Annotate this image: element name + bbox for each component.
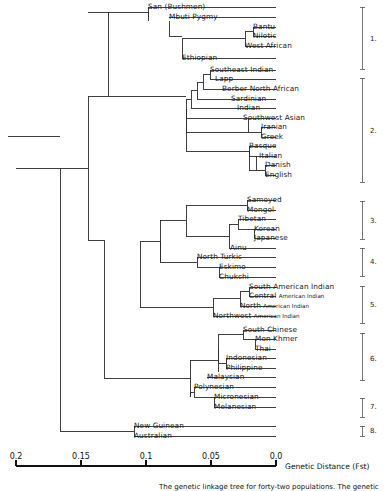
leaf-label-text: North Turkic — [197, 252, 242, 261]
leaf-label-text: Australian — [134, 431, 172, 440]
tree-branch — [169, 21, 182, 36]
group-number: 6. — [370, 355, 377, 363]
leaf-label-text: Malaysian — [207, 372, 244, 381]
leaf-label-text: Thai — [255, 344, 271, 353]
axis-tick-label: 0.0 — [270, 452, 283, 461]
leaf-label: Sardinian — [231, 95, 266, 102]
leaf-label: Eskimo — [219, 263, 246, 270]
leaf-label: Iranian — [261, 123, 287, 130]
leaf-label-text: Nilotic — [253, 31, 277, 40]
leaf-label-text: Indonesian — [226, 353, 267, 362]
leaf-label-text: Mon Khmer — [255, 334, 298, 343]
group-bracket — [360, 286, 365, 323]
leaf-label: Korean — [254, 225, 280, 232]
tree-branch — [249, 151, 256, 170]
tree-branch — [140, 241, 160, 307]
leaf-label: Italian — [259, 152, 282, 159]
group-bracket — [360, 78, 365, 182]
leaf-label-text: Philippine — [226, 363, 263, 372]
leaf-label: Northwest American Indian — [213, 312, 300, 320]
leaf-label: Ethiopian — [182, 54, 217, 61]
leaf-label-text: South Chinese — [243, 325, 297, 334]
leaf-label: New Guinean — [134, 422, 184, 429]
leaf-label-text: Iranian — [261, 122, 287, 131]
leaf-label-qualifier: American Indian — [263, 303, 309, 309]
leaf-label: Melanesian — [214, 403, 256, 410]
group-bracket — [360, 201, 365, 239]
leaf-label-text: Mongol — [247, 205, 274, 214]
leaf-label-text: Northwest — [213, 311, 254, 320]
leaf-label: Tibetan — [238, 215, 266, 222]
group-bracket — [360, 398, 365, 417]
figure-caption: The genetic linkage tree for forty-two p… — [159, 483, 379, 491]
leaf-label: Basque — [249, 142, 277, 149]
axis-tick-label: 0.15 — [72, 452, 90, 461]
leaf-label: Indonesian — [226, 354, 267, 361]
leaf-label: Malaysian — [207, 373, 244, 380]
leaf-label-text: Lapp — [215, 74, 233, 83]
leaf-label: Thai — [255, 345, 271, 352]
group-number: 4. — [370, 258, 377, 266]
leaf-label: Southeast Indian — [210, 66, 273, 73]
leaf-label-text: San (Bushmen) — [148, 2, 205, 11]
leaf-label: South American Indian — [249, 283, 334, 290]
leaf-label-text: Ainu — [230, 243, 247, 252]
leaf-label-text: Southwest Asian — [243, 113, 305, 122]
leaf-label-text: Greek — [261, 132, 283, 141]
axis-tick-label: 0.2 — [10, 452, 23, 461]
leaf-label-text: Italian — [259, 151, 282, 160]
leaf-label-text: Melanesian — [214, 402, 256, 411]
tree-branches — [0, 0, 386, 491]
leaf-label-text: Japanese — [254, 233, 288, 242]
tree-branch — [186, 125, 249, 151]
axis-tick-label: 0.05 — [202, 452, 220, 461]
leaf-label-text: Chukchi — [219, 272, 249, 281]
leaf-label: Japanese — [254, 234, 288, 241]
leaf-label-text: Mbuti Pygmy — [169, 12, 218, 21]
leaf-label-text: Samoyed — [247, 195, 282, 204]
leaf-label: North American Indian — [240, 302, 309, 310]
leaf-label-text: Danish — [265, 160, 291, 169]
leaf-label-text: North — [240, 301, 263, 310]
leaf-label: Polynesian — [194, 383, 234, 390]
leaf-label: Samoyed — [247, 196, 282, 203]
leaf-label: Philippine — [226, 364, 263, 371]
leaf-label: South Chinese — [243, 326, 297, 333]
group-number: 7. — [370, 403, 377, 411]
leaf-label-text: Bantu — [253, 22, 275, 31]
leaf-label: Australian — [134, 432, 172, 439]
tree-branch — [190, 392, 194, 397]
axis-title: Genetic Distance (Fst) — [285, 462, 370, 471]
leaf-label-text: Eskimo — [219, 262, 246, 271]
leaf-label-text: Indian — [237, 103, 260, 112]
leaf-label: Bantu — [253, 23, 275, 30]
leaf-label-text: Berber North African — [222, 84, 299, 93]
leaf-label: West African — [245, 42, 292, 49]
phylogenetic-tree-figure: San (Bushmen)Mbuti PygmyBantuNiloticWest… — [0, 0, 386, 491]
group-bracket — [360, 333, 365, 380]
leaf-label-text: Polynesian — [194, 382, 234, 391]
group-number: 8. — [370, 427, 377, 435]
leaf-label-text: Tibetan — [238, 214, 266, 223]
leaf-label-text: Sardinian — [231, 94, 266, 103]
leaf-label-text: English — [265, 170, 292, 179]
leaf-label-text: Micronesian — [214, 392, 259, 401]
leaf-label-text: Ethiopian — [182, 53, 217, 62]
leaf-label: Indian — [237, 104, 260, 111]
leaf-label-qualifier: American Indian — [254, 313, 300, 319]
leaf-label: English — [265, 171, 292, 178]
tree-branch — [160, 220, 197, 262]
leaf-label-text: Southeast Indian — [210, 65, 273, 74]
leaf-label-text: New Guinean — [134, 421, 184, 430]
group-number: 2. — [370, 127, 377, 135]
group-bracket — [360, 426, 365, 436]
axis-tick-label: 0.1 — [140, 452, 153, 461]
leaf-label: Chukchi — [219, 273, 249, 280]
leaf-label: San (Bushmen) — [148, 3, 205, 10]
leaf-label: Southwest Asian — [243, 114, 305, 121]
leaf-label: Central American Indian — [249, 292, 324, 300]
leaf-label: Mbuti Pygmy — [169, 13, 218, 20]
leaf-label: Danish — [265, 161, 291, 168]
leaf-label-text: Central — [249, 291, 279, 300]
group-bracket — [360, 248, 365, 276]
